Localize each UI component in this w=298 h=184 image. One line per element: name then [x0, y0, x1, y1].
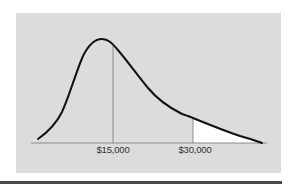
distribution-curve: [38, 39, 262, 143]
x-tick-label-15000: $15,000: [97, 144, 130, 155]
distribution-chart: [0, 0, 298, 184]
x-tick-label-30000: $30,000: [179, 144, 212, 155]
bottom-divider-bar: [0, 181, 282, 184]
